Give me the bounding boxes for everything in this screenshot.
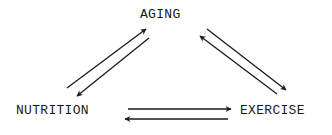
arrow-aging-to-nutrition: [77, 38, 149, 96]
arrow-aging-to-exercise: [207, 29, 286, 90]
arrow-nutrition-to-aging: [67, 29, 146, 88]
arrow-exercise-to-aging: [200, 36, 277, 94]
diagram-canvas: AGING NUTRITION EXERCISE: [0, 0, 332, 135]
arrows-layer: [0, 0, 332, 135]
